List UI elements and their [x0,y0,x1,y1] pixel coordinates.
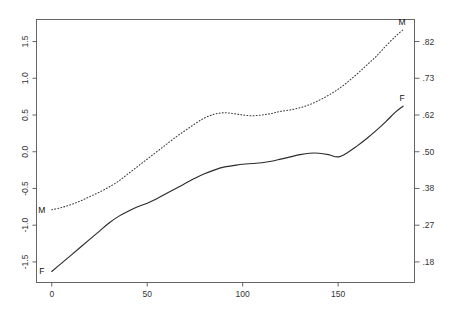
y-axis-left-ticks: 1.51.00.50.0-0.5-1.0-1.5 [20,35,37,269]
y-left-tick-label: 0.5 [20,109,30,121]
y-right-tick-label: .27 [423,220,435,230]
x-axis-ticks: 050100150 [49,283,345,299]
series-start-label-f: F [39,266,44,276]
y-left-tick-label: -0.5 [20,181,30,196]
plot-frame [37,20,415,283]
line-chart: 050100150 1.51.00.50.0-0.5-1.0-1.5 .82.7… [0,0,450,310]
y-left-tick-label: 0.0 [20,146,30,158]
series-end-label-m: M [398,17,405,27]
y-right-tick-label: .50 [423,147,435,157]
y-left-tick-label: -1.5 [20,254,30,269]
y-left-tick-label: 1.0 [20,72,30,84]
x-tick-label: 50 [142,289,152,299]
x-tick-label: 150 [331,289,345,299]
x-tick-label: 0 [49,289,54,299]
y-right-tick-label: .82 [423,37,435,47]
series-line-m [52,30,403,210]
y-left-tick-label: 1.5 [20,35,30,47]
chart-container: 050100150 1.51.00.50.0-0.5-1.0-1.5 .82.7… [0,0,450,310]
series-endpoint-labels: MMFF [38,17,405,277]
series-start-label-m: M [38,205,45,215]
y-right-tick-label: .18 [423,257,435,267]
y-axis-right-ticks: .82.73.62.50.38.27.18 [415,37,435,267]
y-left-tick-label: -1.0 [20,218,30,233]
y-right-tick-label: .73 [423,73,435,83]
series-lines [52,30,403,272]
series-line-f [52,106,403,271]
series-end-label-f: F [399,93,404,103]
y-right-tick-label: .38 [423,183,435,193]
y-right-tick-label: .62 [423,110,435,120]
x-tick-label: 100 [236,289,250,299]
